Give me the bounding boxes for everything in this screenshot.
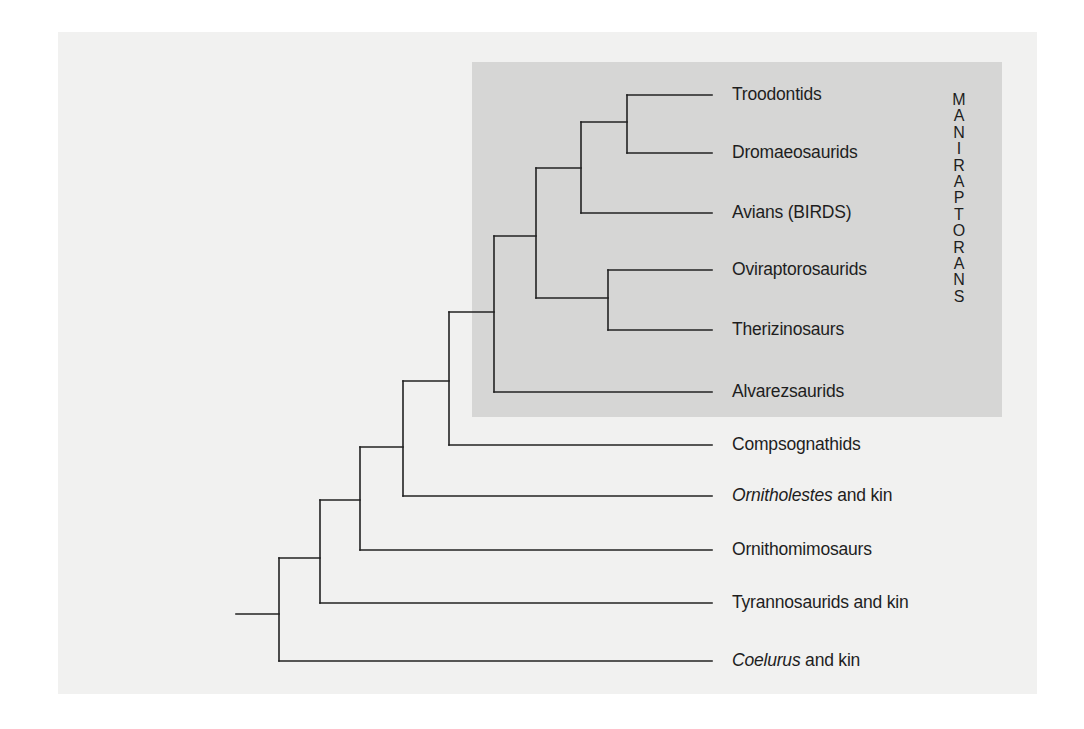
clade-letter: T [948,207,970,223]
maniraptorans-vertical-label: M A N I R A P T O R A N S [948,92,970,305]
clade-letter: S [948,289,970,305]
clade-letter: N [948,272,970,288]
leaf-label-ornitholestes: Ornitholestes and kin [732,485,892,505]
leaf-label-troodontids: Troodontids [732,84,822,104]
leaf-label-compsognathids: Compsognathids [732,434,861,454]
leaf-label-dromaeosaurids: Dromaeosaurids [732,142,858,162]
cladogram-tree [0,0,1084,729]
clade-letter: A [948,256,970,272]
leaf-label-avians: Avians (BIRDS) [732,202,851,222]
clade-letter: R [948,158,970,174]
clade-letter: A [948,108,970,124]
leaf-label-oviraptorosaurids: Oviraptorosaurids [732,259,867,279]
leaf-label-therizinosaurs: Therizinosaurs [732,319,844,339]
clade-letter: O [948,223,970,239]
clade-letter: R [948,240,970,256]
leaf-label-tyrannosaurids: Tyrannosaurids and kin [732,592,909,612]
clade-letter: N [948,125,970,141]
clade-letter: I [948,141,970,157]
leaf-label-alvarezsaurids: Alvarezsaurids [732,381,844,401]
clade-letter: P [948,190,970,206]
clade-letter: M [948,92,970,108]
clade-letter: A [948,174,970,190]
leaf-label-coelurus: Coelurus and kin [732,650,860,670]
leaf-label-ornithomimosaurs: Ornithomimosaurs [732,539,872,559]
